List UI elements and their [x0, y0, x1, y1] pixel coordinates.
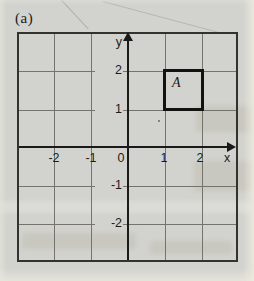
y-tick-neg2: -2	[95, 216, 123, 230]
y-tick-2: 2	[95, 63, 123, 77]
y-axis-arrow-icon	[123, 32, 133, 41]
x-axis-label: x	[216, 151, 238, 165]
x-tick-2: 2	[189, 151, 211, 165]
x-tick-1: 1	[153, 151, 175, 165]
shape-A-square: A	[163, 69, 204, 111]
bleed-through-line	[61, 0, 88, 29]
x-tick-neg2: -2	[43, 151, 65, 165]
shape-label: A	[172, 75, 181, 91]
origin-label: 0	[110, 151, 132, 165]
coordinate-grid: -2 -1 0 1 2 x y 2 1 -1 -2 A	[17, 32, 238, 262]
y-tick-neg1: -1	[95, 178, 123, 192]
x-tick-neg1: -1	[80, 151, 102, 165]
x-axis-line	[19, 146, 228, 148]
y-axis-line	[127, 36, 129, 260]
bleed-through-line	[103, 1, 219, 33]
scanned-figure: (a) -2 -1 0 1 2 x y 2 1 -1 -2 A	[0, 0, 254, 281]
caption-label: (a)	[15, 10, 33, 27]
y-axis-label: y	[95, 35, 123, 49]
print-speck-artifact	[158, 120, 160, 122]
y-tick-1: 1	[95, 102, 123, 116]
